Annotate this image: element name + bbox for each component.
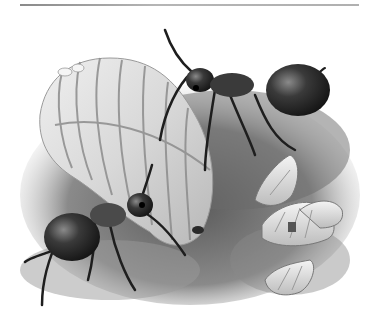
ant-larvae-illustration	[0, 0, 371, 334]
